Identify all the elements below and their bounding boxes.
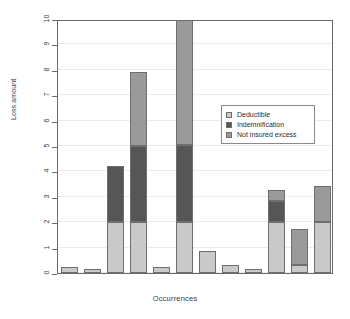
bar-segment-deductible — [199, 251, 216, 273]
bar-segment-not-insured-excess — [176, 20, 193, 145]
x-axis-label: Occurrences — [0, 294, 350, 303]
bar-segment-indemnification — [107, 166, 124, 222]
bar-segment-deductible — [153, 267, 170, 273]
y-axis-tick-label: 6 — [43, 115, 50, 125]
y-axis-tick — [52, 96, 57, 97]
bar — [314, 20, 331, 273]
bar-segment-not-insured-excess — [130, 72, 147, 146]
legend-swatch-icon — [226, 132, 232, 138]
bar — [291, 20, 308, 273]
y-axis-tick — [52, 249, 57, 250]
bar — [84, 20, 101, 273]
bar-segment-indemnification — [176, 145, 193, 222]
legend-swatch-icon — [226, 112, 232, 118]
bar-segment-deductible — [84, 269, 101, 273]
y-axis-tick — [52, 198, 57, 199]
y-axis-tick-label: 3 — [43, 191, 50, 201]
legend-item-label: Indemnification — [237, 120, 284, 129]
y-axis-tick-label: 2 — [43, 217, 50, 227]
y-axis-label: Loss amount — [10, 106, 17, 120]
y-axis-tick-label: 8 — [43, 64, 50, 74]
bar-segment-indemnification — [130, 146, 147, 222]
y-axis-tick-label: 5 — [43, 141, 50, 151]
y-axis-tick — [52, 172, 57, 173]
bar — [245, 20, 262, 273]
y-axis-tick-label: 0 — [43, 268, 50, 278]
plot-area — [57, 20, 333, 274]
legend-item: Not insured excess — [226, 130, 309, 139]
bar-segment-deductible — [291, 265, 308, 273]
bar — [222, 20, 239, 273]
bar — [268, 20, 285, 273]
y-axis-tick-label: 10 — [43, 14, 50, 24]
legend-item: Indemnification — [226, 120, 309, 129]
y-axis-tick-label: 4 — [43, 166, 50, 176]
bar-segment-indemnification — [268, 201, 285, 223]
chart-legend: DeductibleIndemnificationNot insured exc… — [221, 105, 315, 144]
y-axis-tick — [52, 20, 57, 21]
bar — [153, 20, 170, 273]
legend-swatch-icon — [226, 122, 232, 128]
y-axis-tick-label: 9 — [43, 39, 50, 49]
bar-segment-deductible — [314, 222, 331, 273]
bar — [199, 20, 216, 273]
y-axis-tick — [52, 223, 57, 224]
bar — [107, 20, 124, 273]
y-axis-tick — [52, 122, 57, 123]
bar — [130, 20, 147, 273]
y-axis-tick — [52, 45, 57, 46]
bar-segment-deductible — [61, 267, 78, 273]
bar-segment-deductible — [130, 222, 147, 273]
bar-segment-deductible — [222, 265, 239, 273]
bar-segment-not-insured-excess — [314, 186, 331, 222]
bar-segment-not-insured-excess — [291, 229, 308, 265]
bar — [176, 20, 193, 273]
bar — [61, 20, 78, 273]
bar-segment-deductible — [245, 269, 262, 273]
legend-item-label: Deductible — [237, 110, 270, 119]
bar-segment-not-insured-excess — [268, 190, 285, 200]
y-axis-tick — [52, 147, 57, 148]
bar-segment-deductible — [176, 222, 193, 273]
bar-segment-deductible — [268, 222, 285, 273]
legend-item: Deductible — [226, 110, 309, 119]
legend-item-label: Not insured excess — [237, 130, 297, 139]
chart-figure: Loss amount DeductibleIndemnificationNot… — [0, 0, 350, 319]
y-axis-tick-label: 7 — [43, 90, 50, 100]
y-axis-tick — [52, 71, 57, 72]
y-axis-tick-label: 1 — [43, 242, 50, 252]
bar-segment-deductible — [107, 222, 124, 273]
y-axis-tick — [52, 274, 57, 275]
